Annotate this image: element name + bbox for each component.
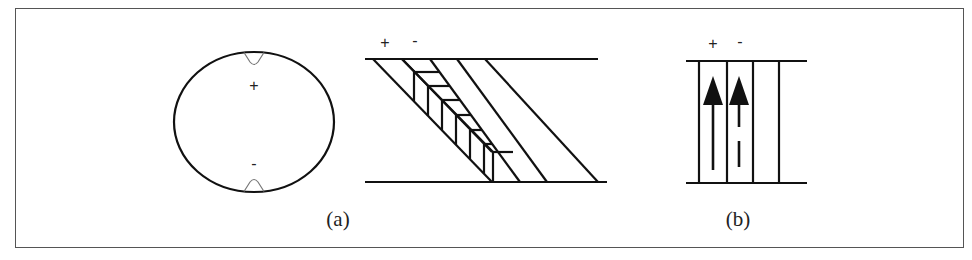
minus-sign: - bbox=[251, 155, 256, 172]
staircase-steps bbox=[402, 59, 513, 182]
circular-cross-section: + - bbox=[174, 52, 334, 192]
dashed-up-arrow-icon bbox=[729, 76, 749, 167]
panel-b-caption: (b) bbox=[726, 207, 751, 231]
plus-sign: + bbox=[708, 35, 717, 52]
vertical-channel-diagram: + - bbox=[686, 33, 807, 183]
plus-sign: + bbox=[380, 34, 389, 51]
diagram-canvas: + - + - (a) bbox=[0, 0, 972, 260]
top-notch-icon bbox=[244, 53, 264, 65]
minus-sign: - bbox=[412, 32, 417, 49]
solid-up-arrow-icon bbox=[703, 76, 723, 170]
panel-a-caption: (a) bbox=[326, 207, 349, 231]
slanted-layer-diagram: + - bbox=[365, 32, 607, 182]
minus-sign: - bbox=[737, 33, 742, 50]
plus-sign: + bbox=[249, 77, 258, 94]
bottom-notch-icon bbox=[244, 180, 264, 192]
